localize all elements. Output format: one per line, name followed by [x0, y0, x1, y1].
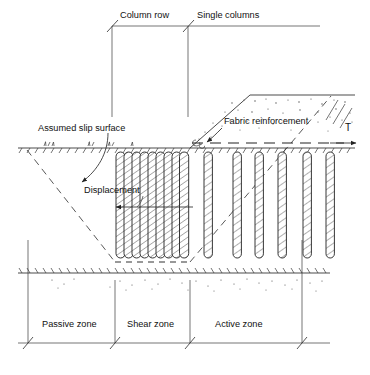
single-column-item [303, 152, 311, 258]
label-fabric-reinforcement: Fabric reinforcement [224, 116, 309, 126]
geotechnical-diagram: Column row Single columns [0, 0, 370, 375]
single-column-item [278, 152, 286, 258]
bedrock-hatch [19, 268, 326, 273]
label-displacement: Displacement [84, 185, 140, 195]
single-column-item [326, 152, 334, 258]
top-dimension-group: Column row Single columns [107, 10, 320, 117]
label-assumed-slip-surface: Assumed slip surface [38, 123, 125, 133]
single-column-item [255, 152, 263, 258]
column-row-group [116, 152, 189, 258]
label-active-zone: Active zone [215, 319, 263, 329]
column-row-item [180, 152, 189, 258]
label-column-row: Column row [120, 10, 169, 20]
fabric-reinforcement-group: T Fabric reinforcement [192, 116, 356, 143]
label-passive-zone: Passive zone [42, 319, 97, 329]
bedrock-stipple [51, 278, 322, 291]
single-column-item [204, 152, 212, 258]
bedrock-group [18, 268, 330, 292]
fabric-reinforcement-leader [207, 128, 222, 142]
bottom-dimension-group: Passive zone Shear zone Active zone [18, 319, 330, 349]
slip-surface-left-line [27, 150, 115, 262]
diagram-canvas: Column row Single columns [0, 0, 370, 375]
single-column-item [233, 152, 241, 258]
single-columns-group [204, 152, 334, 258]
assumed-slip-surface-leader [82, 133, 108, 182]
label-single-columns: Single columns [197, 10, 260, 20]
ground-surface-grass-tufts [44, 142, 133, 147]
label-shear-zone: Shear zone [127, 319, 174, 329]
label-tensile-force-T: T [345, 122, 351, 133]
